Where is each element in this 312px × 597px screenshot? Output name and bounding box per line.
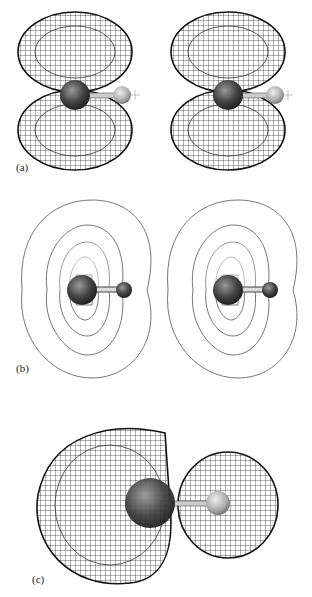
panel-c: (c) [0, 405, 312, 597]
panel-a: (a) [0, 0, 312, 175]
contour-left [22, 200, 151, 378]
panel-label-b: (b) [16, 362, 29, 374]
wireframe-hybrid-orbital-c [0, 405, 312, 597]
panel-label-c: (c) [32, 573, 44, 585]
orbital-left [18, 12, 140, 170]
panel-label-a: (a) [16, 161, 28, 173]
orbital-right [171, 12, 293, 170]
panel-b: (b) [0, 180, 312, 380]
contour-plot-pair-b [0, 180, 312, 380]
contour-right [168, 200, 297, 378]
wireframe-orbital-pair-a [0, 0, 312, 175]
